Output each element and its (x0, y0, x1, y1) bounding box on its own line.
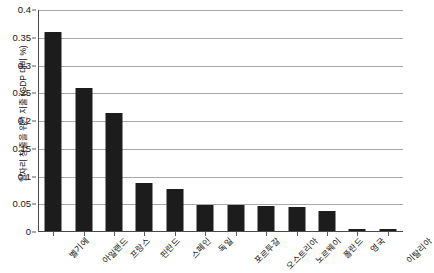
y-axis-tick-mark (32, 232, 36, 233)
x-axis-category-label: 핀란드 (158, 236, 182, 260)
bar (75, 88, 92, 232)
bar-slot (373, 10, 403, 232)
bar-slot (221, 10, 251, 232)
bar-slot (342, 10, 372, 232)
x-axis-category-label: 이탈리아 (404, 236, 434, 266)
x-axis-category-label: 폴란드 (341, 236, 365, 260)
y-axis-tick-mark (32, 37, 36, 38)
y-axis-tick-mark (32, 10, 36, 11)
y-axis-tick-mark (32, 204, 36, 205)
x-axis-line (38, 231, 403, 232)
plot-area (38, 10, 403, 232)
y-axis-line (38, 10, 39, 232)
x-axis-category-label: 벨기에 (67, 236, 91, 260)
y-axis-tick-label: 0.25 (13, 89, 32, 99)
y-axis-tick-label: 0.3 (18, 61, 31, 71)
bar-series (38, 10, 403, 232)
y-axis-tick-label: 0.1 (18, 172, 31, 182)
y-axis-tick-label: 0.2 (18, 116, 31, 126)
bar-slot (312, 10, 342, 232)
x-axis-category-label: 포르투갈 (252, 236, 282, 266)
bar-slot (38, 10, 68, 232)
x-axis-category-label: 프랑스 (128, 236, 152, 260)
bar-slot (190, 10, 220, 232)
bar-slot (251, 10, 281, 232)
y-axis-tick-mark (32, 93, 36, 94)
y-axis-tick-label: 0.15 (13, 144, 32, 154)
y-axis-tick-labels: 0.40.350.30.250.20.150.10.050 (0, 0, 36, 273)
bar-slot (68, 10, 98, 232)
bar (106, 113, 123, 232)
bar-slot (129, 10, 159, 232)
bar (45, 32, 62, 232)
x-axis-category-label: 영국 (369, 236, 387, 254)
y-axis-tick-mark (32, 176, 36, 177)
y-axis-tick-label: 0.05 (13, 200, 32, 210)
bar (288, 207, 305, 232)
bar (197, 205, 214, 232)
bar (318, 211, 335, 232)
bar (166, 189, 183, 232)
x-axis-category-label: 스페인 (189, 236, 213, 260)
bar-slot (160, 10, 190, 232)
y-axis-tick-label: 0.4 (18, 5, 31, 15)
y-axis-tick-mark (32, 121, 36, 122)
y-axis-tick-mark (32, 65, 36, 66)
bar (227, 205, 244, 232)
y-axis-tick-mark (32, 148, 36, 149)
x-axis-category-label: 독일 (217, 236, 235, 254)
x-axis-category-labels: 벨기에아일랜드프랑스핀란드스페인독일포르투갈오스트리아노르웨이폴란드영국이탈리아 (38, 236, 403, 273)
bar-slot (99, 10, 129, 232)
bar-slot (281, 10, 311, 232)
y-axis-tick-label: 0 (26, 227, 31, 237)
x-axis-category-label: 아일랜드 (100, 236, 130, 266)
y-axis-tick-label: 0.35 (13, 33, 32, 43)
x-axis-category-label: 오스트리아 (285, 236, 320, 271)
bar (136, 183, 153, 232)
bar (258, 206, 275, 232)
